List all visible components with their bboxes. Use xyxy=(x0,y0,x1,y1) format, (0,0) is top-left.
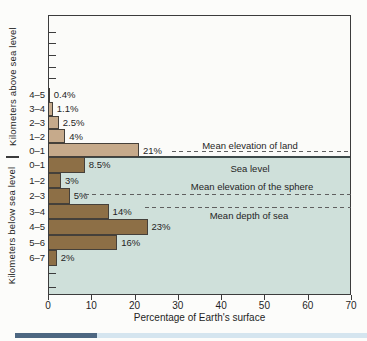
bar-below-1-2 xyxy=(48,173,61,189)
bar-above-1-2 xyxy=(48,129,65,143)
annotation-label: Mean elevation of land xyxy=(202,140,298,151)
annotation-dash-line xyxy=(145,207,351,208)
x-tick-label: 30 xyxy=(167,300,189,311)
y-axis-tick xyxy=(48,67,56,68)
x-tick-label: 70 xyxy=(340,300,362,311)
category-label: 0–1 xyxy=(24,145,45,156)
category-label: 3–4 xyxy=(24,103,45,114)
annotation-dash-line xyxy=(172,151,351,152)
value-label: 8.5% xyxy=(89,159,111,170)
bar-below-4-5 xyxy=(48,219,148,235)
y-axis-tick xyxy=(48,287,56,288)
value-label: 2% xyxy=(61,252,75,263)
page-decoration-band-dark xyxy=(15,333,97,338)
category-label: 4–5 xyxy=(24,89,45,100)
bar-below-3-4 xyxy=(48,204,109,220)
category-label: 0–1 xyxy=(24,159,45,170)
bar-below-6-7 xyxy=(48,250,57,266)
bar-above-0-1 xyxy=(48,143,139,157)
hypsographic-chart-figure: Kilometers above sea level Kilometers be… xyxy=(0,0,367,341)
annotation-dash-line xyxy=(85,194,351,195)
bar-above-2-3 xyxy=(48,116,59,130)
bar-above-3-4 xyxy=(48,102,53,116)
x-tick-label: 20 xyxy=(124,300,146,311)
x-tick-label: 40 xyxy=(210,300,232,311)
value-label: 1.1% xyxy=(57,103,79,114)
x-tick-label: 0 xyxy=(37,300,59,311)
y-axis-tick xyxy=(48,78,56,79)
y-axis-tick xyxy=(48,32,56,33)
value-label: 2.5% xyxy=(63,117,85,128)
y-axis-label-below: Kilometers below sea level xyxy=(5,158,18,294)
x-axis-label: Percentage of Earth's surface xyxy=(48,312,351,323)
annotation-label: Sea level xyxy=(230,163,269,174)
x-tick-label: 60 xyxy=(297,300,319,311)
y-axis-tick xyxy=(48,273,56,274)
annotation-label: Mean elevation of the sphere xyxy=(191,181,314,192)
y-axis-tick xyxy=(48,55,56,56)
value-label: 3% xyxy=(65,175,79,186)
bar-below-5-6 xyxy=(48,235,117,251)
value-label: 4% xyxy=(69,131,83,142)
category-label: 1–2 xyxy=(24,175,45,186)
value-label: 23% xyxy=(152,221,171,232)
category-label: 3–4 xyxy=(24,206,45,217)
value-label: 0.4% xyxy=(54,89,76,100)
category-label: 4–5 xyxy=(24,221,45,232)
bar-below-2-3 xyxy=(48,188,70,204)
category-label: 6–7 xyxy=(24,252,45,263)
bar-above-4-5 xyxy=(48,88,50,102)
y-axis-tick xyxy=(48,43,56,44)
category-label: 2–3 xyxy=(24,190,45,201)
category-label: 5–6 xyxy=(24,237,45,248)
page-decoration-band-light xyxy=(97,333,367,338)
category-label: 2–3 xyxy=(24,117,45,128)
category-label: 1–2 xyxy=(24,131,45,142)
x-tick-label: 50 xyxy=(253,300,275,311)
bar-below-0-1 xyxy=(48,157,85,173)
plot-area xyxy=(48,15,351,295)
x-tick-label: 10 xyxy=(80,300,102,311)
value-label: 21% xyxy=(143,145,162,156)
value-label: 14% xyxy=(113,206,132,217)
value-label: 16% xyxy=(121,237,140,248)
value-label: 5% xyxy=(74,190,88,201)
y-axis-label-above: Kilometers above sea level xyxy=(6,16,19,158)
annotation-label: Mean depth of sea xyxy=(210,210,289,221)
